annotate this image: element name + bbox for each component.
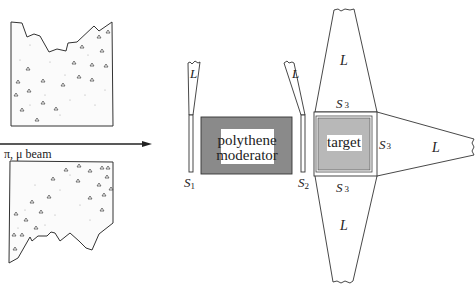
light-guide-label: L [189, 66, 197, 81]
light-guide-label: L [339, 218, 348, 233]
light-guide-label: L [339, 53, 348, 68]
counter-s2 [301, 115, 305, 172]
counter-s1 [189, 115, 193, 172]
moderator-label-line2: moderator [216, 147, 278, 163]
lower-shielding-block [9, 161, 113, 263]
target-label: target [327, 134, 362, 150]
counter-s2-label: S2 [298, 175, 309, 191]
experiment-diagram: π, μ beam L S1 polythene moderator [0, 0, 476, 289]
light-guide-label: L [291, 66, 299, 81]
counter-s3-right-label: S3 [379, 137, 392, 152]
upper-shielding-block [11, 22, 113, 126]
counter-s3-bottom-label: S3 [336, 180, 350, 195]
light-guide-label: L [431, 140, 440, 155]
moderator-label-line1: polythene [217, 132, 276, 148]
light-guide-right [377, 112, 474, 176]
beam-label: π, μ beam [4, 147, 52, 161]
counter-s1-label: S1 [184, 175, 195, 191]
